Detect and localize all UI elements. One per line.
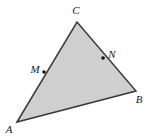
triangle-diagram-svg: A B C M N	[0, 0, 147, 138]
vertex-label-b: B	[136, 93, 143, 105]
point-label-n: N	[107, 48, 116, 60]
point-marker-n	[101, 56, 105, 60]
vertex-label-c: C	[72, 4, 80, 16]
point-marker-m	[42, 70, 46, 74]
vertex-label-a: A	[5, 123, 13, 135]
point-label-m: M	[29, 63, 40, 75]
geometry-figure: A B C M N	[0, 0, 147, 138]
